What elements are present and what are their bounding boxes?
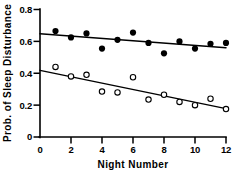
y-tick-label: 0.6 [19, 36, 32, 47]
series-open-circles [53, 64, 229, 112]
y-axis-ticks [34, 10, 41, 138]
y-tick-label: 0.8 [19, 4, 32, 15]
x-tick-label: 8 [161, 144, 166, 155]
series-filled-circles [52, 28, 229, 57]
data-point [145, 40, 151, 46]
x-tick-label: 12 [221, 144, 231, 155]
data-point [130, 75, 135, 80]
data-point [192, 45, 198, 51]
chart-plot-area: 00.20.40.60.8 024681012 Night Number Pro… [0, 0, 250, 173]
axes [39, 9, 226, 138]
x-axis-title: Night Number [98, 159, 169, 170]
y-axis-tick-labels: 00.20.40.60.8 [19, 4, 33, 143]
y-tick-label: 0.2 [19, 100, 32, 111]
sleep-disturbance-chart: 00.20.40.60.8 024681012 Night Number Pro… [0, 0, 250, 173]
y-axis-title: Prob. of Sleep Disturbance [2, 4, 13, 142]
data-point [99, 45, 105, 51]
x-tick-label: 6 [130, 144, 135, 155]
data-point [114, 37, 120, 43]
x-tick-label: 4 [99, 144, 105, 155]
data-point [68, 34, 74, 40]
data-point [161, 50, 167, 56]
x-tick-label: 2 [68, 144, 73, 155]
x-tick-label: 10 [190, 144, 200, 155]
data-point [68, 74, 73, 79]
data-point [84, 72, 89, 77]
data-point [177, 99, 182, 104]
data-point [146, 97, 151, 102]
data-points [52, 28, 229, 112]
data-point [83, 30, 89, 36]
y-tick-label: 0 [27, 131, 32, 142]
data-point [115, 90, 120, 95]
trend-lines [40, 34, 226, 109]
data-point [161, 92, 166, 97]
data-point [53, 64, 58, 69]
data-point [192, 102, 197, 107]
data-point [223, 106, 228, 111]
trend-line-filled-circles [40, 34, 226, 48]
data-point [99, 89, 104, 94]
data-point [52, 28, 58, 34]
data-point [130, 30, 136, 36]
data-point [207, 41, 213, 47]
x-tick-label: 0 [37, 144, 42, 155]
x-axis-ticks [71, 137, 226, 144]
x-axis-tick-labels: 024681012 [37, 144, 231, 155]
data-point [176, 38, 182, 44]
data-point [223, 40, 229, 46]
y-tick-label: 0.4 [19, 68, 33, 79]
data-point [208, 96, 213, 101]
